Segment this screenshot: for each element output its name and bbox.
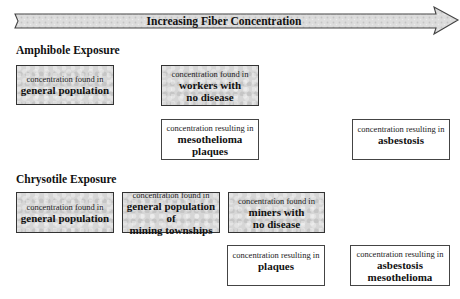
box-prefix: concentration found in [133,190,210,200]
box-line: mesothelioma [368,271,433,283]
amphibole-heading: Amphibole Exposure [16,43,120,57]
box-prefix: concentration found in [172,69,249,79]
box-line: asbestosis [378,134,424,146]
box-line: general population of [123,200,219,224]
box-prefix: concentration resulting in [233,250,320,260]
box-line: no disease [186,91,233,103]
amphibole-workers-no-disease-box: concentration found in workers with no d… [161,65,259,106]
chrysotile-mining-townships-box: concentration found in general populatio… [122,192,220,233]
box-line: no disease [253,218,300,230]
box-line: asbestosis [377,259,423,271]
box-prefix: concentration resulting in [358,124,445,134]
box-line: general population [21,84,109,96]
arrow-label: Increasing Fiber Concentration [14,13,434,29]
amphibole-mesothelioma-plaques-box: concentration resulting in mesothelioma … [161,119,259,160]
box-line: general population [21,212,109,224]
chrysotile-asbestosis-mesothelioma-box: concentration resulting in asbestosis me… [350,245,450,286]
chrysotile-heading: Chrysotile Exposure [16,172,116,186]
box-prefix: concentration found in [27,74,104,84]
amphibole-general-population-box: concentration found in general populatio… [16,65,114,105]
chrysotile-general-population-box: concentration found in general populatio… [16,192,114,233]
chrysotile-miners-no-disease-box: concentration found in miners with no di… [228,192,325,233]
amphibole-asbestosis-box: concentration resulting in asbestosis [352,119,450,160]
box-line: workers with [179,79,241,91]
chrysotile-plaques-box: concentration resulting in plaques [227,245,325,286]
box-prefix: concentration found in [27,202,104,212]
box-prefix: concentration resulting in [357,249,444,259]
box-prefix: concentration resulting in [167,123,254,133]
box-line: mesothelioma [178,133,243,145]
box-line: plaques [258,260,294,272]
box-line: mining townships [130,224,213,236]
box-prefix: concentration found in [238,196,315,206]
box-line: miners with [249,206,305,218]
box-line: plaques [192,145,228,157]
